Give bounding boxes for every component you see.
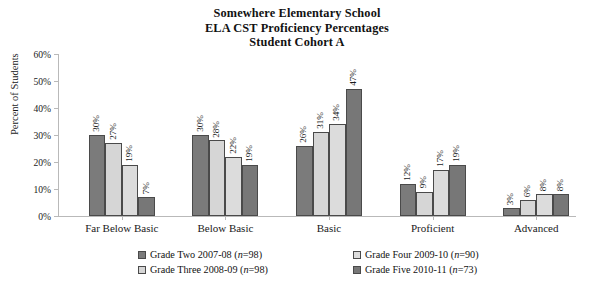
bar[interactable] (553, 194, 570, 216)
bar-value-label: 3% (506, 193, 515, 205)
y-axis-tick-label: 50% (33, 76, 51, 87)
bar[interactable] (400, 184, 417, 216)
legend-item[interactable]: Grade Four 2009-10 (n=90) (353, 249, 479, 260)
x-axis-tick (536, 216, 537, 220)
bar[interactable] (89, 135, 106, 216)
bar[interactable] (313, 132, 330, 216)
x-axis-tick (433, 216, 434, 220)
y-axis-tick (54, 189, 58, 190)
bar[interactable] (138, 197, 155, 216)
x-axis-category-label: Far Below Basic (85, 222, 158, 234)
y-axis-line (58, 54, 59, 217)
bar-value-label: 30% (196, 115, 205, 132)
x-axis-tick (225, 216, 226, 220)
bar[interactable] (433, 170, 450, 216)
bar-value-label: 19% (452, 145, 461, 162)
legend-label: Grade Two 2007-08 (n=98) (150, 249, 262, 260)
y-axis-tick-label: 40% (33, 103, 51, 114)
x-axis-category-label: Basic (317, 222, 341, 234)
bar[interactable] (503, 208, 520, 216)
legend-item[interactable]: Grade Two 2007-08 (n=98) (138, 249, 262, 260)
y-axis-tick (54, 162, 58, 163)
bar-value-label: 12% (403, 164, 412, 181)
bar[interactable] (449, 165, 466, 216)
legend-swatch-icon (138, 266, 146, 274)
legend-item[interactable]: Grade Three 2008-09 (n=98) (138, 264, 268, 275)
bar-value-label: 8% (556, 179, 565, 191)
y-axis-tick-label: 0% (38, 211, 51, 222)
bar-value-label: 26% (299, 126, 308, 143)
legend-swatch-icon (353, 266, 361, 274)
x-axis-category-label: Below Basic (197, 222, 253, 234)
plot-area: 0%10%20%30%40%50%60%30%27%19%7%Far Below… (58, 54, 576, 217)
bar-value-label: 19% (245, 145, 254, 162)
bar-value-label: 9% (419, 176, 428, 188)
chart-legend: Grade Two 2007-08 (n=98)Grade Three 2008… (138, 249, 558, 283)
y-axis-tick-label: 30% (33, 130, 51, 141)
legend-label: Grade Four 2009-10 (n=90) (365, 249, 479, 260)
y-axis-tick (54, 108, 58, 109)
chart-container: Somewhere Elementary School ELA CST Prof… (0, 0, 594, 292)
bar-value-label: 34% (332, 104, 341, 121)
legend-label: Grade Three 2008-09 (n=98) (150, 264, 268, 275)
bar-value-label: 19% (125, 145, 134, 162)
bar[interactable] (242, 165, 259, 216)
y-axis-title: Percent of Students (9, 53, 20, 135)
chart-title-line-1: Somewhere Elementary School (0, 6, 594, 21)
bar[interactable] (105, 143, 122, 216)
bar[interactable] (520, 200, 537, 216)
legend-swatch-icon (353, 251, 361, 259)
legend-item[interactable]: Grade Five 2010-11 (n=73) (353, 264, 477, 275)
y-axis-tick-label: 60% (33, 49, 51, 60)
bar-value-label: 47% (349, 69, 358, 86)
x-axis-category-label: Proficient (411, 222, 454, 234)
x-axis-line (58, 216, 576, 217)
x-axis-tick (329, 216, 330, 220)
bar[interactable] (209, 140, 226, 216)
y-axis-tick (54, 81, 58, 82)
bar-value-label: 22% (229, 137, 238, 154)
bar[interactable] (192, 135, 209, 216)
bar-value-label: 7% (142, 182, 151, 194)
bar[interactable] (416, 192, 433, 216)
bar[interactable] (346, 89, 363, 216)
bar-value-label: 8% (539, 179, 548, 191)
bar-value-label: 27% (109, 123, 118, 140)
x-axis-category-label: Advanced (514, 222, 559, 234)
bar-value-label: 17% (436, 150, 445, 167)
y-axis-tick (54, 135, 58, 136)
y-axis-tick (54, 54, 58, 55)
bar-value-label: 31% (316, 112, 325, 129)
chart-title-line-2: ELA CST Proficiency Percentages (0, 21, 594, 36)
bar-value-label: 28% (212, 121, 221, 138)
x-axis-tick (122, 216, 123, 220)
bar-value-label: 30% (92, 115, 101, 132)
chart-title: Somewhere Elementary School ELA CST Prof… (0, 6, 594, 50)
bar[interactable] (225, 157, 242, 216)
legend-label: Grade Five 2010-11 (n=73) (365, 264, 477, 275)
bar[interactable] (536, 194, 553, 216)
bar[interactable] (122, 165, 139, 216)
bar[interactable] (296, 146, 313, 216)
y-axis-tick-label: 20% (33, 157, 51, 168)
bar[interactable] (329, 124, 346, 216)
legend-swatch-icon (138, 251, 146, 259)
y-axis-tick (54, 216, 58, 217)
y-axis-tick-label: 10% (33, 184, 51, 195)
chart-title-line-3: Student Cohort A (0, 35, 594, 50)
bar-value-label: 6% (523, 185, 532, 197)
